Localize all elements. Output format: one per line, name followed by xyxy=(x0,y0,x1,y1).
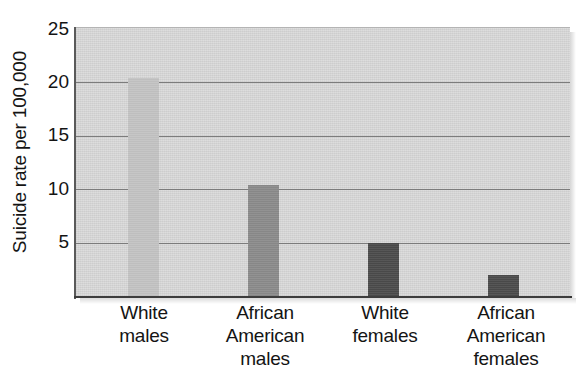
y-tick-label-10: 10 xyxy=(36,178,69,197)
y-tick-label-25: 25 xyxy=(36,19,69,38)
y-axis-title: Suicide rate per 100,000 xyxy=(3,2,37,302)
bar-white-females xyxy=(368,243,399,297)
x-label-white-females: White females xyxy=(330,301,440,347)
y-axis-line xyxy=(74,27,76,299)
x-label-line: females xyxy=(330,324,440,347)
plot-top-edge xyxy=(75,27,570,28)
x-label-line: males xyxy=(89,324,199,347)
bar-african-american-males xyxy=(248,185,279,297)
x-label-line: females xyxy=(445,347,567,370)
y-tick-label-5: 5 xyxy=(36,231,69,250)
bar-fill-texture xyxy=(368,243,399,297)
plot-shadow-right xyxy=(570,32,576,298)
x-label-line: White xyxy=(89,301,199,324)
x-label-line: African xyxy=(445,301,567,324)
bar-fill-texture xyxy=(248,185,279,297)
bar-african-american-females xyxy=(488,275,519,297)
y-tick-label-20: 20 xyxy=(36,72,69,91)
x-label-african-american-females: African American females xyxy=(445,301,567,370)
bar-fill-texture xyxy=(128,78,159,298)
x-label-white-males: White males xyxy=(89,301,199,347)
x-label-line: African xyxy=(205,301,325,324)
bar-fill-texture xyxy=(488,275,519,297)
x-label-line: males xyxy=(205,347,325,370)
bar-chart-figure: Suicide rate per 100,000 25 20 15 10 5 xyxy=(0,0,581,374)
x-label-line: American xyxy=(205,324,325,347)
x-label-african-american-males: African American males xyxy=(205,301,325,370)
x-label-line: White xyxy=(330,301,440,324)
bar-white-males xyxy=(128,78,159,298)
x-label-line: American xyxy=(445,324,567,347)
y-tick-label-15: 15 xyxy=(36,125,69,144)
x-axis-tick-labels: White males African American males White… xyxy=(75,301,570,374)
plot-area xyxy=(75,28,570,297)
y-axis-tick-labels: 25 20 15 10 5 xyxy=(36,0,69,374)
